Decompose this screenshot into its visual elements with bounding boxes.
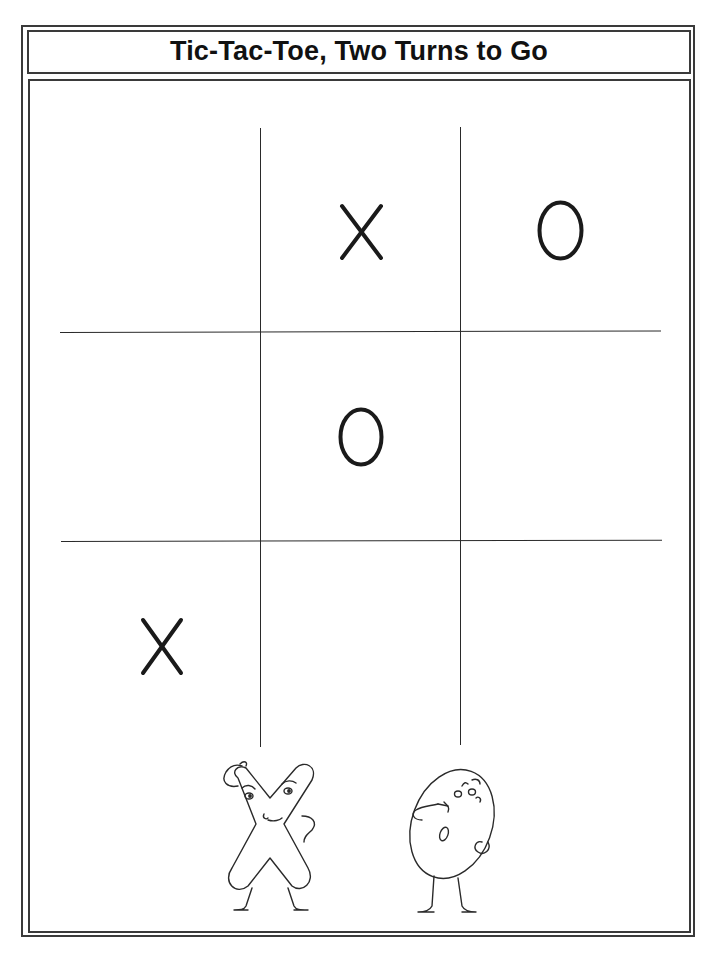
grid-line-vertical-1 (260, 128, 261, 747)
title-box: Tic-Tac-Toe, Two Turns to Go (27, 30, 691, 74)
grid-line-vertical-2 (460, 127, 461, 745)
cell-0-0[interactable] (62, 130, 258, 330)
o-character-illustration (392, 760, 504, 918)
x-character-illustration (212, 758, 330, 916)
cell-0-2-o-mark (537, 200, 584, 261)
x-mark-icon (140, 617, 184, 676)
cell-2-0-x-mark (140, 617, 184, 676)
o-mark-icon (537, 200, 584, 261)
cell-1-2[interactable] (463, 335, 659, 539)
cell-1-0[interactable] (62, 335, 258, 539)
o-cartoon-icon (392, 760, 504, 918)
cell-2-2[interactable] (463, 544, 659, 744)
cell-0-1-x-mark (339, 203, 384, 261)
o-mark-icon (338, 407, 384, 467)
cell-2-1[interactable] (263, 544, 458, 744)
x-mark-icon (339, 203, 384, 261)
cell-1-1-o-mark (338, 407, 384, 467)
x-cartoon-icon (212, 758, 330, 916)
page-title: Tic-Tac-Toe, Two Turns to Go (170, 36, 548, 67)
